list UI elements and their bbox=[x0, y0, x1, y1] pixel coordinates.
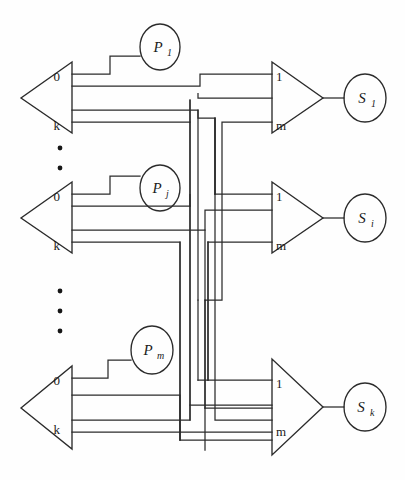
sink-node-label-1: S bbox=[358, 90, 366, 106]
sink-node-sub-2: i bbox=[371, 218, 374, 229]
source-port-top-label-3: 0 bbox=[54, 373, 61, 388]
wire-src1-port0-to-p1 bbox=[72, 56, 140, 74]
wire-src2-port0-to-p2 bbox=[72, 176, 140, 194]
wire-src1-portk-crossover-down bbox=[72, 122, 272, 405]
block-2: 0 k P j 1 m S i bbox=[21, 100, 386, 440]
dest-port-bottom-label-2: m bbox=[276, 238, 286, 253]
wire-src3-line3 bbox=[72, 405, 190, 420]
wire-src1-line3-crossover-down bbox=[72, 110, 272, 420]
process-node-sub-1: 1 bbox=[167, 47, 172, 58]
diagram-canvas: 0 k P 1 1 m S 1 bbox=[0, 0, 405, 480]
sink-node-sub-3: k bbox=[370, 407, 375, 418]
dest-port-top-label-1: 1 bbox=[276, 69, 283, 84]
wire-src1-line2-to-dest1-top bbox=[72, 74, 272, 86]
block-1: 0 k P 1 1 m S 1 bbox=[21, 24, 386, 450]
process-node-label-3: P bbox=[142, 342, 152, 358]
sink-node-3 bbox=[344, 383, 386, 431]
process-node-label-1: P bbox=[152, 39, 162, 55]
dest-triangle-3 bbox=[272, 359, 323, 455]
dest-port-bottom-label-3: m bbox=[276, 424, 286, 439]
dest-port-top-label-3: 1 bbox=[276, 376, 283, 391]
sink-node-sub-1: 1 bbox=[371, 98, 376, 109]
process-node-label-2: P bbox=[151, 180, 161, 196]
process-node-sub-3: m bbox=[157, 350, 164, 361]
dest-port-top-label-2: 1 bbox=[276, 189, 283, 204]
ellipsis-dot bbox=[58, 329, 63, 334]
vertical-dots-lower bbox=[58, 289, 63, 334]
sink-node-label-3: S bbox=[357, 399, 365, 415]
wire-src2-line3-to-dest2-mid bbox=[72, 210, 272, 230]
wire-src2-line2-stub bbox=[72, 194, 190, 206]
ellipsis-dot bbox=[58, 289, 63, 294]
ellipsis-dot bbox=[58, 146, 63, 151]
vertical-dots-upper bbox=[58, 146, 63, 171]
source-triangle-2 bbox=[21, 182, 72, 253]
source-triangle-3 bbox=[21, 366, 72, 449]
wire-src3-port0-to-p3 bbox=[72, 360, 131, 378]
block-3: 0 k P m 1 m S k bbox=[21, 300, 386, 455]
ellipsis-dot bbox=[58, 166, 63, 171]
process-node-sub-2: j bbox=[164, 188, 169, 199]
interconnection-network-diagram: 0 k P 1 1 m S 1 bbox=[0, 0, 405, 480]
wire-src3-line2 bbox=[72, 395, 180, 440]
source-triangle-1 bbox=[21, 62, 72, 133]
source-port-top-label-2: 0 bbox=[54, 189, 61, 204]
source-port-bottom-label-1: k bbox=[54, 118, 61, 133]
dest-port-bottom-label-1: m bbox=[276, 118, 286, 133]
source-port-top-label-1: 0 bbox=[54, 69, 61, 84]
wire-dest1-mid-in bbox=[198, 93, 272, 98]
source-port-bottom-label-2: k bbox=[54, 238, 61, 253]
source-port-bottom-label-3: k bbox=[54, 422, 61, 437]
ellipsis-dot bbox=[58, 309, 63, 314]
crossover-bus bbox=[180, 100, 215, 440]
sink-node-label-2: S bbox=[358, 210, 366, 226]
